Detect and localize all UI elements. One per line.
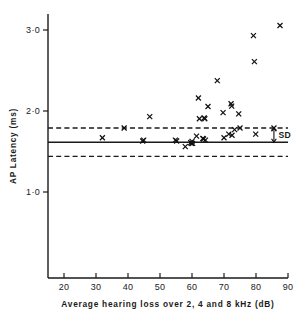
x-axis-tick-label: 60 [187,282,198,292]
data-point-marker [252,59,257,64]
x-axis-tick-label: 40 [123,282,134,292]
y-axis-tick-label: 2·0 [26,106,40,116]
data-point-marker [196,96,201,101]
x-axis-tick-label: 30 [91,282,102,292]
data-point-marker [221,110,226,115]
data-point-marker [206,104,211,109]
sd-bracket [272,128,277,142]
data-point-marker [278,23,283,28]
data-point-marker [100,135,105,140]
data-point-marker [236,111,241,116]
data-point-marker [251,33,256,38]
annotations-group: SD [272,128,292,142]
data-point-marker [197,116,202,121]
data-point-marker [183,144,188,149]
figure-container: 1·02·03·02030405060708090 SD Average hea… [0,0,304,319]
data-point-marker [253,132,258,137]
y-axis-title: AP Latency (ms) [8,108,18,184]
sd-annotation-label: SD [278,130,291,140]
data-points-group [100,23,283,149]
data-point-marker [147,114,152,119]
x-axis-tick-label: 50 [155,282,166,292]
reference-lines-group [48,128,288,156]
data-point-marker [232,127,237,132]
axes-group: 1·02·03·02030405060708090 [26,14,293,292]
data-point-marker [215,78,220,83]
x-axis-tick-label: 80 [251,282,262,292]
x-axis-title: Average hearing loss over 2, 4 and 8 kHz… [61,299,274,309]
y-axis-tick-label: 1·0 [26,187,40,197]
y-axis-tick-label: 3·0 [26,25,40,35]
scatter-plot: 1·02·03·02030405060708090 SD Average hea… [0,0,304,319]
x-axis-tick-label: 70 [219,282,230,292]
x-axis-tick-label: 20 [59,282,70,292]
data-point-marker [194,134,199,139]
x-axis-tick-label: 90 [283,282,294,292]
data-point-marker [222,135,227,140]
